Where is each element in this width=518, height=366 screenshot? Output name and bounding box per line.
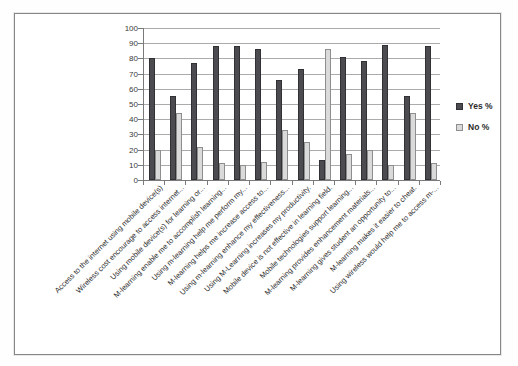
chart-frame: [14, 13, 501, 355]
legend-label-yes: Yes %: [468, 101, 493, 111]
legend-label-no: No %: [468, 122, 489, 132]
legend-item-yes: Yes %: [456, 101, 493, 111]
legend-item-no: No %: [456, 122, 493, 132]
scanned-chart-page: 1009080706050403020100Access to the inte…: [0, 0, 518, 366]
yes-series-swatch-icon: [456, 103, 463, 110]
no-series-swatch-icon: [456, 124, 463, 131]
chart-legend: Yes % No %: [456, 101, 493, 143]
